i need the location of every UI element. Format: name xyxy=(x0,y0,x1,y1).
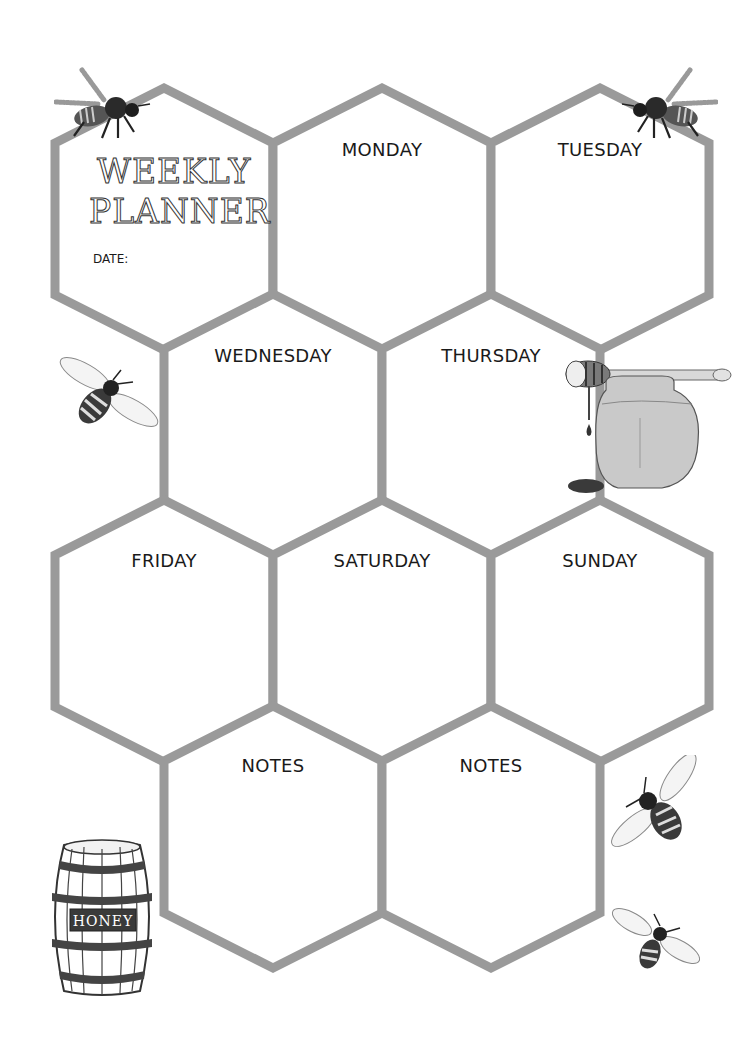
bee-icon xyxy=(54,66,154,142)
hex-notes-1[interactable] xyxy=(164,706,382,968)
planner-title-planner: PLANNER xyxy=(89,192,271,231)
bee-icon xyxy=(606,755,702,855)
bee-icon xyxy=(55,352,161,434)
bee-icon xyxy=(618,66,718,142)
label-monday: MONDAY xyxy=(273,139,491,160)
label-saturday: SATURDAY xyxy=(273,550,491,571)
honey-dipper-icon xyxy=(566,361,610,387)
planner-title-weekly: WEEKLY xyxy=(97,152,251,191)
label-wednesday: WEDNESDAY xyxy=(164,345,382,366)
honey-jar-icon xyxy=(562,358,734,494)
barrel-label: HONEY xyxy=(73,913,133,929)
honey-barrel-icon: HONEY xyxy=(46,835,158,1001)
date-field[interactable] xyxy=(130,252,240,268)
weekly-planner-page: WEEKLY PLANNER DATE: MONDAY TUESDAY WEDN… xyxy=(0,0,745,1053)
bee-icon xyxy=(608,902,700,972)
label-friday: FRIDAY xyxy=(55,550,273,571)
label-notes-2: NOTES xyxy=(382,755,600,776)
label-notes-1: NOTES xyxy=(164,755,382,776)
label-tuesday: TUESDAY xyxy=(491,139,709,160)
label-sunday: SUNDAY xyxy=(491,550,709,571)
hex-notes-2[interactable] xyxy=(382,706,600,968)
date-label: DATE: xyxy=(93,252,128,266)
